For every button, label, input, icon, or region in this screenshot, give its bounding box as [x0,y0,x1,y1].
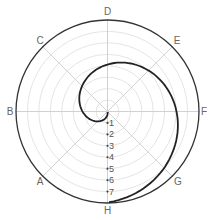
radial-tick-5: 5 [109,164,114,174]
angular-label-f: F [201,106,207,117]
radial-tick-3: 3 [109,141,114,151]
angular-label-a: A [37,176,44,187]
radial-tick-dot [106,122,108,124]
angular-label-h: H [104,205,111,216]
radial-tick-7: 7 [109,187,114,197]
angular-label-e: E [174,35,181,46]
angular-label-d: D [104,6,111,17]
radial-tick-dot [106,156,108,158]
polar-chart: D E F G H A B C 1 2 3 4 5 6 7 [0,0,213,220]
radial-tick-dot [106,168,108,170]
radial-tick-1: 1 [109,118,114,128]
grid-spoke [108,47,173,112]
radial-tick-labels: 1 2 3 4 5 6 7 [109,118,114,197]
radial-tick-dot [106,190,108,192]
radial-tick-dot [106,145,108,147]
radial-tick-4: 4 [109,152,114,162]
angular-label-c: C [36,35,43,46]
radial-tick-2: 2 [109,129,114,139]
radial-tick-dot [106,133,108,135]
grid-spoke [43,47,108,112]
grid-spoke [108,112,173,177]
angular-spokes [16,20,199,203]
radial-tick-dot [106,179,108,181]
angular-label-b: B [7,106,14,117]
angular-label-g: G [174,176,182,187]
radial-tick-6: 6 [109,175,114,185]
